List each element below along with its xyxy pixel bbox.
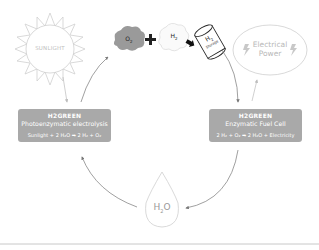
power-line2: Power	[250, 49, 290, 58]
o2-sub: 2	[130, 39, 133, 44]
right-box-brand: H2GREEN	[209, 112, 302, 120]
left-box-equation: Sunlight + 2 H₂O ➡ 2 H₂ + O₂	[18, 132, 111, 139]
electrical-power-label: Electrical Power	[250, 40, 290, 58]
sunlight-label: SUNLIGHT	[30, 45, 70, 51]
lightning-icon-right	[290, 44, 297, 56]
h2-label: H2	[164, 32, 184, 41]
photoenzymatic-electrolysis-box: H2GREEN Photoenzymatic electrolysis Sunl…	[18, 109, 111, 142]
arrow-water-to-left-box	[82, 157, 137, 207]
plus-icon	[145, 34, 156, 45]
water-o: O	[163, 202, 170, 212]
right-box-equation: 2 H₂ + O₂ ➡ 2 H₂O + Electricity	[209, 132, 302, 139]
enzymatic-fuel-cell-box: H2GREEN Enzymatic Fuel Cell 2 H₂ + O₂ ➡ …	[209, 109, 302, 142]
water-label: H2O	[147, 202, 177, 214]
power-line1: Electrical	[250, 40, 290, 49]
sunlight-arrow	[63, 77, 67, 102]
water-drop-icon	[146, 172, 179, 227]
lightning-icon-left	[243, 44, 250, 56]
arrow-left-box-to-o2	[81, 57, 108, 102]
arrow-right-box-to-water	[186, 150, 238, 208]
right-box-title: Enzymatic Fuel Cell	[209, 120, 302, 128]
left-box-brand: H2GREEN	[18, 112, 111, 120]
left-box-title: Photoenzymatic electrolysis	[18, 120, 111, 128]
o2-label: O2	[119, 35, 139, 44]
h2-sub: 2	[175, 36, 178, 41]
electricity-arrow	[252, 80, 257, 101]
arrow-storage-to-right-box	[222, 50, 238, 102]
